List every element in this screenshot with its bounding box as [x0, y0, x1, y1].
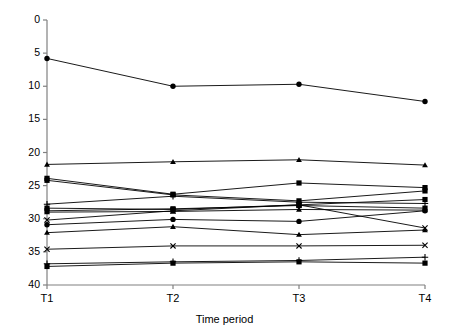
data-point-square-marker — [422, 197, 427, 202]
data-point-circle-marker — [170, 217, 175, 222]
x-tick-label: T4 — [405, 292, 445, 304]
data-point-square-marker — [422, 188, 427, 193]
y-tick-label: 20 — [18, 146, 40, 158]
series-polyline — [47, 180, 425, 201]
series-polyline — [47, 160, 425, 165]
series-polyline — [47, 178, 425, 194]
y-tick-label: 25 — [18, 179, 40, 191]
x-axis-title: Time period — [0, 313, 449, 325]
data-point-plus-marker — [422, 254, 428, 260]
data-point-square-marker — [44, 264, 49, 269]
data-point-square-marker — [296, 259, 301, 264]
series-line — [44, 259, 427, 269]
x-tick-label: T3 — [279, 292, 319, 304]
series-polyline — [47, 196, 425, 204]
y-tick-label: 5 — [18, 46, 40, 58]
y-tick-label: 0 — [18, 13, 40, 25]
data-point-circle-marker — [44, 222, 49, 227]
series-polyline — [47, 58, 425, 101]
data-point-circle-marker — [296, 82, 301, 87]
series-line — [44, 243, 427, 252]
data-point-square-marker — [44, 178, 49, 183]
chart-container: Pulmonary vascular resistance index (Woo… — [0, 0, 449, 336]
data-point-square-marker — [422, 261, 427, 266]
data-point-circle-marker — [170, 84, 175, 89]
data-point-circle-marker — [44, 56, 49, 61]
x-tick-label: T1 — [27, 292, 67, 304]
series-line — [44, 224, 428, 237]
data-point-circle-marker — [422, 99, 427, 104]
y-tick-label: 40 — [18, 278, 40, 290]
x-tick-label: T2 — [153, 292, 193, 304]
y-tick-label: 10 — [18, 79, 40, 91]
series-line — [44, 202, 427, 230]
data-point-square-marker — [296, 180, 301, 185]
y-tick-label: 30 — [18, 212, 40, 224]
data-point-circle-marker — [422, 208, 427, 213]
data-point-circle-marker — [296, 219, 301, 224]
series-layer — [44, 56, 428, 269]
series-polyline — [47, 245, 425, 249]
line-chart-plot — [0, 0, 449, 336]
series-line — [44, 157, 428, 167]
series-line — [44, 56, 427, 104]
series-polyline — [47, 227, 425, 235]
y-tick-label: 35 — [18, 245, 40, 257]
data-point-square-marker — [170, 261, 175, 266]
y-tick-label: 15 — [18, 112, 40, 124]
